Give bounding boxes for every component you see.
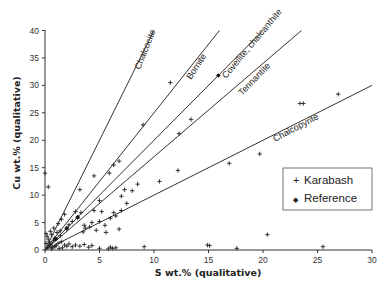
x-tick-label: 30 [367, 255, 377, 265]
karabash-point [82, 242, 86, 246]
karabash-point [122, 187, 126, 191]
y-tick-label: 10 [30, 190, 40, 200]
karabash-point [168, 80, 172, 84]
karabash-point [258, 152, 262, 156]
karabash-point [117, 159, 121, 163]
label-chalcopyrite: Chalcopyrite [271, 111, 320, 143]
legend: + Karabash ◆ Reference [283, 168, 372, 210]
karabash-point [94, 228, 98, 232]
label-chalcocite: Chalcocite [133, 28, 158, 71]
karabash-point [130, 189, 134, 193]
data-points [43, 73, 341, 251]
label-bornite: Bornite [184, 52, 208, 81]
karabash-point [104, 230, 108, 234]
y-tick-label: 0 [34, 245, 39, 255]
karabash-point [78, 244, 82, 248]
label-tennantite: Tennantite [236, 61, 272, 98]
y-tick-label: 20 [30, 135, 40, 145]
karabash-point [321, 245, 325, 249]
y-axis-title: Cu wt.% (qualitative) [11, 76, 22, 189]
karabash-point [114, 214, 118, 218]
karabash-point [176, 168, 180, 172]
karabash-point [336, 92, 340, 96]
legend-karabash-symbol: + [293, 174, 299, 186]
karabash-point [67, 223, 71, 227]
x-tick-label: 25 [313, 255, 323, 265]
y-tick-label: 25 [30, 108, 40, 118]
y-tick-label: 15 [30, 163, 40, 173]
y-tick-label: 30 [30, 80, 40, 90]
karabash-point [177, 131, 181, 135]
karabash-point [227, 161, 231, 165]
karabash-point [67, 242, 71, 246]
x-tick-label: 20 [258, 255, 268, 265]
karabash-point [58, 234, 62, 238]
karabash-point [90, 220, 94, 224]
x-tick-label: 15 [204, 255, 214, 265]
karabash-point [142, 245, 146, 249]
karabash-point [119, 194, 123, 198]
reference-lines [45, 31, 372, 251]
karabash-point [46, 185, 50, 189]
karabash-point [70, 219, 74, 223]
scatter-chart: 0510152025300510152025303540 Chalcocite … [0, 0, 386, 294]
x-tick-label: 10 [149, 255, 159, 265]
karabash-point [111, 163, 115, 167]
y-tick-label: 40 [30, 26, 40, 36]
y-tick-label: 35 [30, 53, 40, 63]
karabash-point [141, 123, 145, 127]
karabash-point [117, 227, 121, 231]
karabash-point [99, 209, 103, 213]
karabash-point [265, 232, 269, 236]
karabash-point [157, 179, 161, 183]
karabash-point [56, 221, 60, 225]
karabash-point [92, 174, 96, 178]
legend-reference-label: Reference [304, 192, 357, 204]
legend-reference-symbol: ◆ [293, 196, 299, 204]
x-tick-label: 5 [97, 255, 102, 265]
karabash-point [79, 210, 83, 214]
karabash-point [207, 243, 211, 247]
karabash-point [103, 223, 107, 227]
karabash-point [301, 101, 305, 105]
karabash-point [205, 243, 209, 247]
legend-karabash-label: Karabash [304, 174, 353, 186]
x-tick-label: 0 [43, 255, 48, 265]
karabash-point [189, 117, 193, 121]
karabash-point [125, 201, 129, 205]
karabash-point [114, 246, 118, 250]
x-axis-title: S wt.% (qualitative) [155, 267, 261, 278]
label-covellite: Covellite, chalcanthite [220, 7, 284, 81]
karabash-point [78, 187, 82, 191]
karabash-point [135, 182, 139, 186]
y-tick-label: 5 [34, 218, 39, 228]
karabash-point [60, 246, 64, 250]
